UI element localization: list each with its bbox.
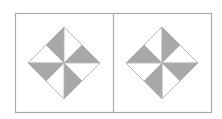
pinwheel-figure <box>0 0 222 119</box>
left-pinwheel-diamond <box>28 27 100 99</box>
right-pinwheel-diamond <box>126 27 198 99</box>
